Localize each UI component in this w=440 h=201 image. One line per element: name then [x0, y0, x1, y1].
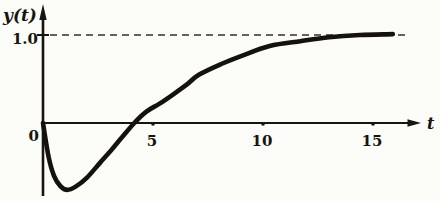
x-tick-label: 5	[147, 132, 157, 150]
origin-label: 0	[29, 127, 39, 145]
step-response-figure: 51015 y(t) 1.0 0 t	[0, 0, 440, 201]
x-axis-arrowhead-icon	[408, 119, 422, 126]
x-axis-ticks: 51015	[147, 122, 383, 150]
plot-canvas: 51015 y(t) 1.0 0 t	[0, 0, 440, 201]
x-tick-label: 10	[252, 132, 273, 150]
x-tick-label: 15	[362, 132, 383, 150]
x-axis-label: t	[427, 114, 435, 133]
y-axis-label: y(t)	[2, 5, 37, 25]
y-tick-label: 1.0	[12, 30, 38, 48]
y-axis-arrowhead-icon	[39, 4, 46, 20]
response-curve	[43, 34, 393, 190]
x-tick-mark	[151, 122, 155, 126]
x-tick-mark	[371, 122, 375, 126]
x-tick-mark	[261, 122, 265, 126]
